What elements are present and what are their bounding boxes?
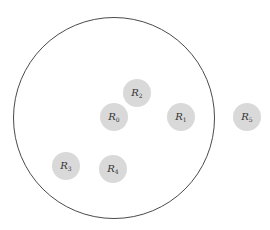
node-label-base: R xyxy=(241,111,249,122)
node-label-base: R xyxy=(60,160,68,171)
node-r1: R1 xyxy=(167,103,195,131)
node-r4: R4 xyxy=(99,155,127,183)
node-label-base: R xyxy=(108,111,116,122)
node-label: R1 xyxy=(175,112,186,123)
node-label-base: R xyxy=(131,87,139,98)
node-label-subscript: 3 xyxy=(68,165,72,172)
node-label-subscript: 5 xyxy=(249,116,253,123)
node-label: R2 xyxy=(131,88,142,99)
node-label: R0 xyxy=(108,112,119,123)
node-label-subscript: 0 xyxy=(116,116,120,123)
node-label: R3 xyxy=(60,161,71,172)
node-label-subscript: 2 xyxy=(139,92,143,99)
node-r2: R2 xyxy=(123,79,151,107)
node-label-base: R xyxy=(107,163,115,174)
node-label-subscript: 1 xyxy=(183,116,187,123)
node-r5: R5 xyxy=(233,103,261,131)
node-label: R5 xyxy=(241,112,252,123)
node-r0: R0 xyxy=(100,103,128,131)
node-label-subscript: 4 xyxy=(115,168,119,175)
node-label: R4 xyxy=(107,164,118,175)
node-r3: R3 xyxy=(52,152,80,180)
node-label-base: R xyxy=(175,111,183,122)
diagram-canvas: R0R1R2R3R4R5 xyxy=(0,0,270,230)
